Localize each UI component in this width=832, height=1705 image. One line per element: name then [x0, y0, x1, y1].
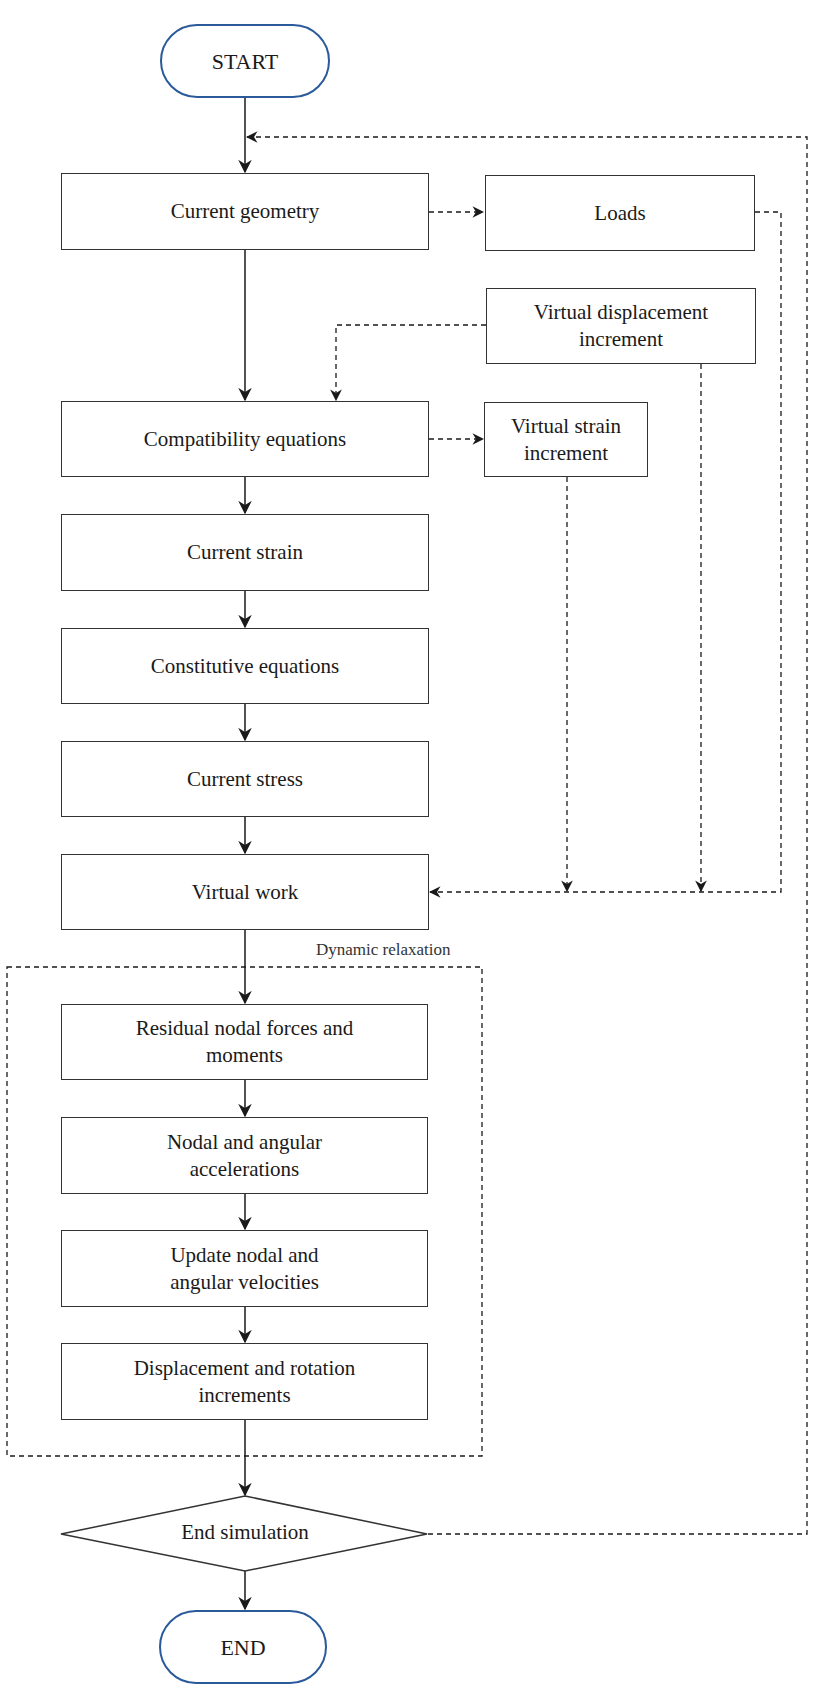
- step-label: Virtual strain increment: [503, 413, 629, 467]
- step-label: Displacement and rotation increments: [132, 1355, 357, 1409]
- step-label: Loads: [594, 200, 645, 227]
- step-current-geometry: Current geometry: [61, 173, 429, 250]
- step-velocities: Update nodal and angular velocities: [61, 1230, 428, 1307]
- step-virtual-work: Virtual work: [61, 854, 429, 930]
- step-label: Current stress: [187, 766, 303, 793]
- dynamic-relaxation-label: Dynamic relaxation: [316, 940, 451, 960]
- step-accelerations: Nodal and angular accelerations: [61, 1117, 428, 1194]
- start-label: START: [212, 48, 279, 75]
- step-label: Update nodal and angular velocities: [147, 1242, 342, 1296]
- step-virtual-strain-increment: Virtual strain increment: [484, 402, 648, 477]
- step-compatibility-equations: Compatibility equations: [61, 401, 429, 477]
- step-label: Compatibility equations: [144, 426, 346, 453]
- step-current-stress: Current stress: [61, 741, 429, 817]
- step-label: Virtual work: [192, 879, 299, 906]
- step-label: Current geometry: [171, 198, 320, 225]
- step-label: Constitutive equations: [151, 653, 339, 680]
- connector-lines: [0, 0, 832, 1705]
- step-label: Residual nodal forces and moments: [102, 1015, 387, 1069]
- end-terminal: END: [159, 1610, 327, 1684]
- step-virtual-displacement-increment: Virtual displacement increment: [486, 288, 756, 364]
- step-residual-forces: Residual nodal forces and moments: [61, 1004, 428, 1080]
- end-label: END: [220, 1634, 265, 1661]
- step-label: Virtual displacement increment: [517, 299, 725, 353]
- decision-label: End simulation: [125, 1520, 365, 1545]
- step-loads: Loads: [485, 175, 755, 251]
- step-constitutive-equations: Constitutive equations: [61, 628, 429, 704]
- step-increments: Displacement and rotation increments: [61, 1343, 428, 1420]
- step-label: Current strain: [187, 539, 303, 566]
- start-terminal: START: [160, 24, 330, 98]
- step-label: Nodal and angular accelerations: [142, 1129, 347, 1183]
- step-current-strain: Current strain: [61, 514, 429, 591]
